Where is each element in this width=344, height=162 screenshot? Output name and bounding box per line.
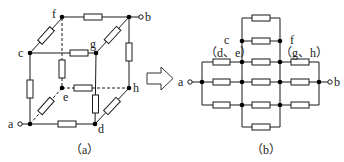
node-f — [60, 15, 65, 20]
node-c-105 — [240, 103, 245, 108]
resistor-mid-c — [252, 38, 270, 44]
resistor-mid-bot — [252, 102, 270, 108]
resistor-mid-toploop — [252, 15, 270, 21]
terminal-b-icon — [139, 15, 143, 19]
label-c: c — [18, 46, 23, 60]
circuit-diagram: a b c d e f g h （a） — [0, 0, 344, 162]
node-g — [94, 51, 99, 56]
label-b: b — [334, 75, 340, 89]
node-c-82 — [240, 80, 245, 85]
label-d: d — [98, 122, 104, 136]
node-h — [127, 86, 132, 91]
node-c-62 — [240, 60, 245, 65]
label-f: f — [52, 7, 56, 21]
node-a — [200, 80, 205, 85]
resistor-e-h — [74, 85, 92, 91]
resistor-c-g — [70, 50, 88, 56]
caption-a: （a） — [70, 143, 99, 157]
node-f-82 — [278, 80, 283, 85]
node-b — [317, 80, 322, 85]
resistor-a-e — [38, 97, 54, 114]
cube-diagram: a b c d e f g h （a） — [8, 7, 151, 157]
resistor-d-h — [104, 97, 121, 114]
node-f-62 — [278, 60, 283, 65]
caption-b: （b） — [251, 143, 281, 157]
label-g: g — [90, 37, 96, 51]
label-d-e: （d、e） — [205, 46, 252, 60]
resistor-b-h — [126, 43, 132, 61]
hollow-right-arrow-icon — [147, 67, 173, 90]
label-e: e — [63, 90, 68, 104]
resistor-right-mid — [291, 79, 309, 85]
resistor-f-b — [84, 14, 102, 20]
label-a: a — [8, 117, 14, 131]
resistor-mid-bottomloop — [252, 124, 270, 130]
resistor-g-b — [104, 26, 121, 43]
terminal-a-icon — [18, 122, 22, 126]
label-c: c — [224, 33, 229, 47]
resistor-c-f — [38, 27, 55, 44]
label-b: b — [145, 10, 151, 24]
node-b — [127, 15, 132, 20]
resistor-left-bot — [213, 102, 230, 108]
resistor-g-d — [93, 95, 99, 113]
resistor-mid-top — [252, 59, 270, 65]
node-f — [278, 39, 283, 44]
terminal-a-icon — [188, 80, 192, 84]
resistor-mid-mid — [252, 79, 270, 85]
label-g-h: （g、h） — [280, 46, 328, 60]
resistor-right-bot — [291, 102, 309, 108]
resistor-a-c — [27, 80, 33, 98]
node-d — [93, 122, 98, 127]
label-a: a — [178, 75, 184, 89]
figure: a b c d e f g h （a） — [0, 0, 344, 162]
label-h: h — [133, 81, 139, 95]
resistor-a-d — [58, 121, 76, 127]
terminal-b-icon — [328, 80, 332, 84]
label-f: f — [290, 33, 294, 47]
equivalent-circuit: a b c （d、e） f （g、h） （b） — [178, 15, 340, 157]
node-f-105 — [278, 103, 283, 108]
resistor-f-e — [59, 60, 65, 78]
node-a — [28, 122, 33, 127]
node-c — [28, 51, 33, 56]
resistor-left-mid — [213, 79, 230, 85]
node-c — [240, 39, 245, 44]
